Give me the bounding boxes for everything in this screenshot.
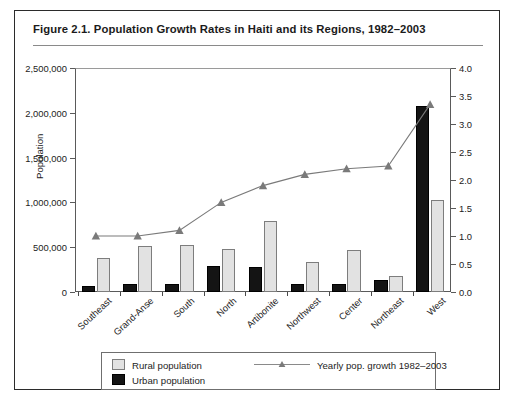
y-tick-label-left: 1,500,000	[25, 152, 67, 163]
legend-label-urban: Urban population	[132, 375, 205, 386]
x-axis-labels: SoutheastGrand-AnseSouthNorthArtiboniteN…	[75, 295, 451, 341]
y-tick-right	[451, 96, 456, 97]
y-tick-label-right: 1.0	[459, 231, 472, 242]
y-tick-label-right: 1.5	[459, 203, 472, 214]
y-tick-label-right: 3.5	[459, 91, 472, 102]
rural-swatch-icon	[112, 359, 125, 370]
plot-area: 0500,0001,000,0001,500,0002,000,0002,500…	[75, 68, 451, 292]
y-tick-label-right: 4.0	[459, 63, 472, 74]
legend-item-rural: Rural population	[112, 359, 202, 371]
y-tick-label-right: 2.5	[459, 147, 472, 158]
y-tick-right	[451, 152, 456, 153]
y-tick-right	[451, 264, 456, 265]
y-tick-right	[451, 180, 456, 181]
y-tick-label-right: 2.0	[459, 175, 472, 186]
growth-line-path	[96, 104, 430, 236]
y-tick-label-left: 2,500,000	[25, 63, 67, 74]
y-tick-label-left: 1,000,000	[25, 197, 67, 208]
y-tick-right	[451, 208, 456, 209]
growth-line-series	[75, 68, 451, 292]
y-tick-right	[451, 124, 456, 125]
legend-item-urban: Urban population	[112, 374, 205, 386]
figure-title: Figure 2.1. Population Growth Rates in H…	[33, 23, 483, 35]
chart-legend: Rural population Urban population Yearly…	[101, 352, 436, 390]
growth-data-marker	[175, 226, 183, 234]
y-tick-label-left: 2,000,000	[25, 107, 67, 118]
legend-label-growth: Yearly pop. growth 1982–2003	[317, 360, 447, 371]
figure-frame: Figure 2.1. Population Growth Rates in H…	[14, 10, 500, 390]
growth-data-marker	[217, 198, 225, 206]
y-tick-label-right: 3.0	[459, 119, 472, 130]
y-tick-left	[70, 292, 75, 293]
urban-swatch-icon	[112, 374, 125, 385]
legend-label-rural: Rural population	[132, 360, 202, 371]
growth-line-marker-icon	[254, 359, 310, 370]
y-tick-label-right: 0.5	[459, 259, 472, 270]
growth-data-marker	[426, 100, 434, 108]
y-tick-label-left: 500,000	[33, 242, 67, 253]
y-tick-right	[451, 236, 456, 237]
y-tick-label-left: 0	[62, 287, 67, 298]
legend-item-growth: Yearly pop. growth 1982–2003	[254, 359, 447, 371]
title-divider	[33, 45, 483, 46]
y-tick-right	[451, 68, 456, 69]
